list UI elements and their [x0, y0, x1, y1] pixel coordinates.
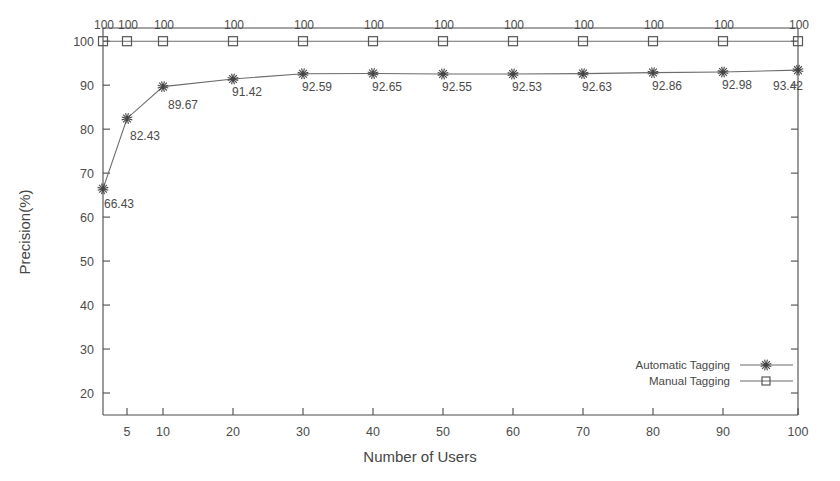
- y-tick-label: 80: [80, 123, 94, 137]
- automatic-tagging-point-label: 66.43: [104, 197, 134, 211]
- manual-tagging-point-label: 100: [294, 18, 314, 32]
- manual-tagging-point-label: 100: [714, 18, 734, 32]
- manual-tagging-point-label: 100: [434, 18, 454, 32]
- manual-tagging-point-label: 100: [644, 18, 664, 32]
- y-tick-label: 100: [73, 35, 94, 49]
- x-tick-label: 60: [506, 425, 520, 439]
- automatic-tagging-point-label: 93.42: [773, 79, 803, 93]
- manual-tagging-point-label: 100: [504, 18, 524, 32]
- x-tick-label: 100: [788, 425, 809, 439]
- y-tick-label: 50: [80, 255, 94, 269]
- automatic-tagging-point-label: 92.59: [302, 80, 332, 94]
- x-tick-label: 70: [576, 425, 590, 439]
- automatic-tagging-point-label: 92.65: [372, 80, 402, 94]
- manual-tagging-point-label: 100: [154, 18, 174, 32]
- x-tick-label: 80: [646, 425, 660, 439]
- y-axis-title: Precision(%): [16, 189, 33, 274]
- precision-vs-users-chart: 2030405060708090100 51020304050607080901…: [0, 0, 840, 481]
- manual-tagging-point-label: 100: [789, 18, 809, 32]
- automatic-tagging-point-label: 92.55: [442, 80, 472, 94]
- manual-tagging-point-label: 100: [224, 18, 244, 32]
- automatic-tagging-point-label: 92.98: [722, 78, 752, 92]
- y-tick-label: 90: [80, 79, 94, 93]
- x-tick-label: 10: [156, 425, 170, 439]
- x-axis-title: Number of Users: [363, 448, 476, 465]
- x-tick-label: 90: [716, 425, 730, 439]
- y-tick-label: 70: [80, 167, 94, 181]
- y-tick-label: 30: [80, 343, 94, 357]
- automatic-tagging-point-label: 92.63: [582, 80, 612, 94]
- manual-tagging-point-label: 100: [364, 18, 384, 32]
- manual-tagging-point-label: 100: [94, 18, 114, 32]
- y-tick-label: 20: [80, 387, 94, 401]
- chart-canvas: 2030405060708090100 51020304050607080901…: [0, 0, 840, 481]
- legend-label-automatic-tagging: Automatic Tagging: [636, 359, 730, 371]
- manual-tagging-point-label: 100: [574, 18, 594, 32]
- x-tick-label: 20: [226, 425, 240, 439]
- automatic-tagging-point-label: 92.86: [652, 79, 682, 93]
- x-tick-label: 40: [366, 425, 380, 439]
- x-tick-label: 5: [124, 425, 131, 439]
- y-tick-label: 40: [80, 299, 94, 313]
- x-tick-label: 50: [436, 425, 450, 439]
- automatic-tagging-point-label: 82.43: [130, 129, 160, 143]
- legend-label-manual-tagging: Manual Tagging: [649, 375, 730, 387]
- manual-tagging-point-label: 100: [118, 18, 138, 32]
- automatic-tagging-point-label: 89.67: [168, 98, 198, 112]
- automatic-tagging-point-label: 92.53: [512, 80, 542, 94]
- x-tick-label: 30: [296, 425, 310, 439]
- y-tick-label: 60: [80, 211, 94, 225]
- automatic-tagging-point-label: 91.42: [232, 85, 262, 99]
